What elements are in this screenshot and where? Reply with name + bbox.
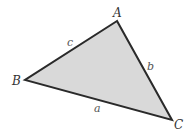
side-label-c: c	[67, 36, 73, 49]
side-label-a: a	[94, 102, 101, 115]
vertex-label-c: C	[174, 118, 183, 132]
side-label-b: b	[147, 60, 154, 73]
vertex-label-b: B	[11, 74, 21, 88]
triangle-diagram: A B C a b c	[0, 0, 187, 133]
vertex-label-a: A	[112, 6, 122, 20]
